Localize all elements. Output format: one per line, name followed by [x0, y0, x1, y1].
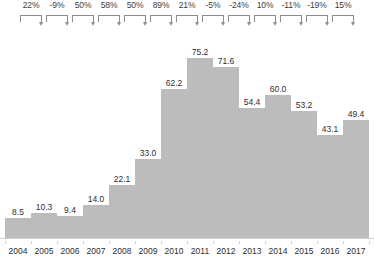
bar[interactable] — [83, 205, 109, 238]
bar[interactable] — [135, 159, 161, 238]
growth-label: 89% — [148, 0, 174, 11]
axis-label-2008: 2008 — [109, 246, 135, 257]
axis-tick — [239, 241, 240, 244]
bar[interactable] — [343, 120, 369, 238]
axis-tick — [109, 241, 110, 244]
growth-label: 22% — [18, 0, 44, 11]
bar-value-label: 54.4 — [239, 97, 265, 107]
bracket-arrow-icon — [39, 22, 43, 26]
bracket-shape — [306, 15, 328, 22]
bar[interactable] — [57, 216, 83, 238]
bracket-arrow-icon — [91, 22, 95, 26]
bar-group: 22.1 — [109, 30, 135, 238]
growth-label: -19% — [304, 0, 330, 11]
axis-tick — [369, 241, 370, 244]
axis-label-2010: 2010 — [161, 246, 187, 257]
bar-group: 10.3 — [31, 30, 57, 238]
bar-value-label: 43.1 — [317, 124, 343, 134]
growth-bracket: 50% — [122, 0, 148, 30]
growth-label: -5% — [200, 0, 226, 11]
growth-label: -9% — [44, 0, 70, 11]
x-axis-labels: 2004200520062007200820092010201120122013… — [0, 241, 374, 261]
bar-group: 75.2 — [187, 30, 213, 238]
bar-group: 60.0 — [265, 30, 291, 238]
bar-value-label: 14.0 — [83, 194, 109, 204]
bracket-shape — [228, 15, 250, 22]
bar-group: 33.0 — [135, 30, 161, 238]
axis-tick — [5, 241, 6, 244]
bar[interactable] — [213, 67, 239, 238]
growth-label: -11% — [278, 0, 304, 11]
bar-value-label: 10.3 — [31, 202, 57, 212]
bar-value-label: 33.0 — [135, 148, 161, 158]
axis-label-2007: 2007 — [83, 246, 109, 257]
axis-tick — [213, 241, 214, 244]
growth-bracket: -9% — [44, 0, 70, 30]
bracket-shape — [332, 15, 354, 22]
bar-group: 49.4 — [343, 30, 369, 238]
bar-group: 43.1 — [317, 30, 343, 238]
bracket-arrow-icon — [117, 22, 121, 26]
bracket-shape — [20, 15, 42, 22]
axis-label-2005: 2005 — [31, 246, 57, 257]
axis-tick — [83, 241, 84, 244]
plot-area: 8.510.39.414.022.133.062.275.271.654.460… — [0, 30, 374, 238]
bracket-shape — [176, 15, 198, 22]
growth-label: 15% — [330, 0, 356, 11]
bar[interactable] — [317, 135, 343, 238]
bar-group: 14.0 — [83, 30, 109, 238]
bar-value-label: 49.4 — [343, 109, 369, 119]
bracket-shape — [72, 15, 94, 22]
growth-bracket: -19% — [304, 0, 330, 30]
axis-label-2012: 2012 — [213, 246, 239, 257]
bar-value-label: 22.1 — [109, 174, 135, 184]
growth-label: 50% — [122, 0, 148, 11]
bracket-shape — [150, 15, 172, 22]
growth-bracket: 89% — [148, 0, 174, 30]
bracket-shape — [254, 15, 276, 22]
bar[interactable] — [187, 58, 213, 238]
bar[interactable] — [291, 111, 317, 238]
bracket-shape — [280, 15, 302, 22]
bar-value-label: 62.2 — [161, 78, 187, 88]
bar[interactable] — [161, 89, 187, 238]
axis-label-2011: 2011 — [187, 246, 213, 257]
bar-value-label: 9.4 — [57, 205, 83, 215]
bracket-arrow-icon — [299, 22, 303, 26]
bar-value-label: 71.6 — [213, 56, 239, 66]
axis-label-2013: 2013 — [239, 246, 265, 257]
bar[interactable] — [239, 108, 265, 238]
axis-label-2004: 2004 — [5, 246, 31, 257]
bracket-arrow-icon — [169, 22, 173, 26]
bar-group: 8.5 — [5, 30, 31, 238]
axis-label-2014: 2014 — [265, 246, 291, 257]
bar-chart: 22%-9%50%58%50%89%21%-5%-24%10%-11%-19%1… — [0, 0, 374, 270]
bar[interactable] — [109, 185, 135, 238]
growth-label: 58% — [96, 0, 122, 11]
growth-bracket: 50% — [70, 0, 96, 30]
bracket-arrow-icon — [325, 22, 329, 26]
growth-label: 10% — [252, 0, 278, 11]
bar-group: 9.4 — [57, 30, 83, 238]
axis-baseline — [0, 238, 374, 239]
growth-label: 50% — [70, 0, 96, 11]
axis-label-2017: 2017 — [343, 246, 369, 257]
axis-tick — [161, 241, 162, 244]
bar-group: 53.2 — [291, 30, 317, 238]
bracket-arrow-icon — [143, 22, 147, 26]
growth-bracket: 10% — [252, 0, 278, 30]
bar[interactable] — [31, 213, 57, 238]
growth-bracket: 22% — [18, 0, 44, 30]
bracket-arrow-icon — [247, 22, 251, 26]
growth-bracket: 15% — [330, 0, 356, 30]
bar-value-label: 60.0 — [265, 84, 291, 94]
bar[interactable] — [265, 95, 291, 238]
bar-value-label: 75.2 — [187, 47, 213, 57]
bracket-shape — [202, 15, 224, 22]
axis-tick — [343, 241, 344, 244]
bar-group: 71.6 — [213, 30, 239, 238]
bar-group: 54.4 — [239, 30, 265, 238]
growth-bracket: -24% — [226, 0, 252, 30]
bar[interactable] — [5, 218, 31, 238]
axis-tick — [291, 241, 292, 244]
